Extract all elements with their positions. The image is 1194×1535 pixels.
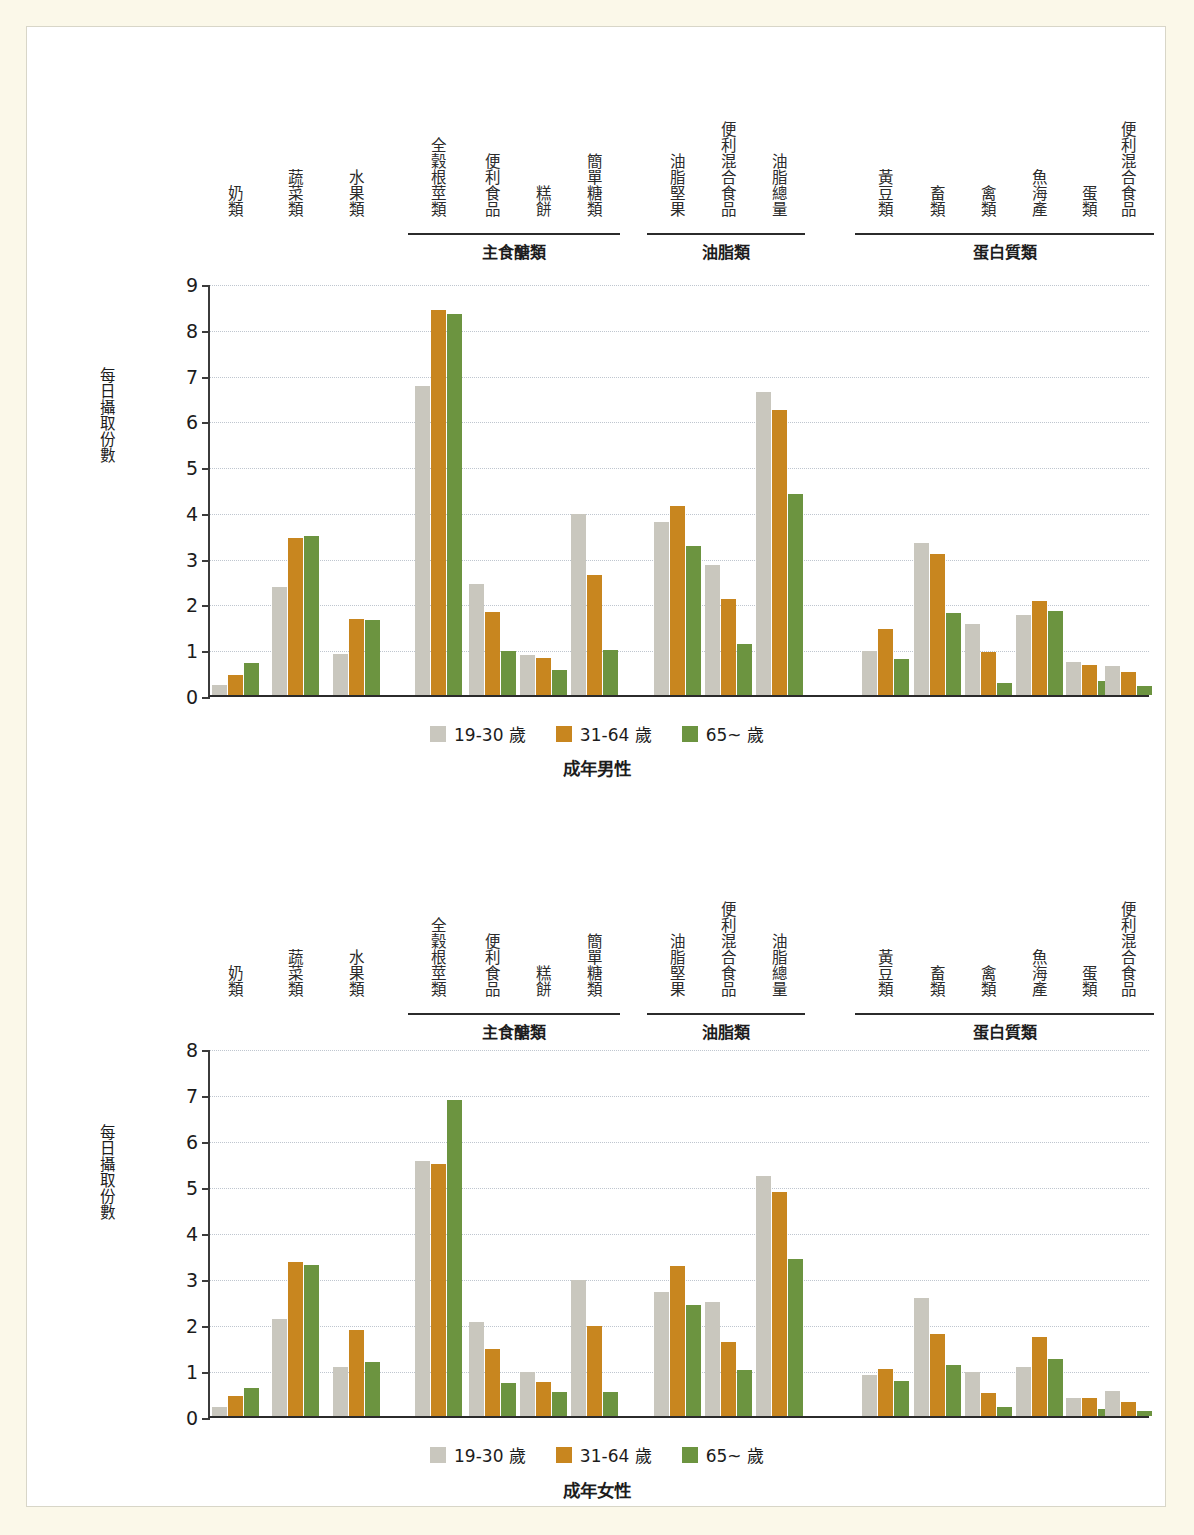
- bar-male-3-0: [415, 386, 430, 695]
- gridline-male-5: [210, 468, 1149, 469]
- gridline-male-7: [210, 377, 1149, 378]
- bar-male-3-1: [431, 310, 446, 695]
- gridline-female-7: [210, 1096, 1149, 1097]
- bar-male-12-2: [997, 683, 1012, 695]
- legend-item-female-1: 31-64 歲: [556, 1442, 652, 1467]
- legend-item-male-0: 19-30 歲: [430, 721, 526, 746]
- y-tick-label-male-1: 1: [186, 640, 198, 662]
- y-tick-female-3: [202, 1280, 210, 1282]
- bar-female-2-0: [333, 1367, 348, 1416]
- y-tick-female-5: [202, 1188, 210, 1190]
- category-label-male-15: 便利混合食品: [1118, 121, 1134, 217]
- y-tick-label-female-6: 6: [186, 1131, 198, 1153]
- bar-female-0-1: [228, 1396, 243, 1416]
- category-label-male-12: 禽類: [978, 185, 994, 217]
- y-tick-male-7: [202, 377, 210, 379]
- y-tick-label-male-5: 5: [186, 457, 198, 479]
- chart-title-female: 成年女性: [27, 1477, 1167, 1502]
- category-header-band-female: 奶類蔬菜類水果類全穀根莖類便利食品糕餅簡單糖類油脂堅果便利混合食品油脂總量黃豆類…: [27, 847, 1167, 1042]
- legend-item-female-0: 19-30 歲: [430, 1442, 526, 1467]
- bar-male-1-0: [272, 587, 287, 695]
- y-tick-male-0: [202, 697, 210, 699]
- legend-item-female-2: 65~ 歲: [682, 1442, 764, 1467]
- legend-swatch-male-2: [682, 726, 698, 742]
- y-tick-label-female-2: 2: [186, 1315, 198, 1337]
- bar-female-0-0: [212, 1407, 227, 1416]
- group-name-female-1: 油脂類: [702, 1019, 750, 1043]
- bar-female-13-1: [1032, 1337, 1047, 1416]
- category-label-female-11: 畜類: [927, 965, 943, 997]
- bar-female-6-2: [603, 1392, 618, 1416]
- bar-male-2-0: [333, 654, 348, 695]
- category-label-female-10: 黃豆類: [875, 949, 891, 997]
- legend-swatch-female-2: [682, 1447, 698, 1463]
- y-tick-female-8: [202, 1050, 210, 1052]
- bar-male-7-0: [654, 522, 669, 695]
- category-label-female-12: 禽類: [978, 965, 994, 997]
- y-tick-label-male-9: 9: [186, 274, 198, 296]
- bar-female-8-0: [705, 1302, 720, 1416]
- y-tick-male-6: [202, 422, 210, 424]
- bar-female-5-2: [552, 1392, 567, 1416]
- y-tick-label-male-2: 2: [186, 594, 198, 616]
- y-tick-male-5: [202, 468, 210, 470]
- bar-female-6-1: [587, 1326, 602, 1416]
- legend-label-male-0: 19-30 歲: [454, 721, 526, 746]
- bar-female-15-0: [1105, 1391, 1120, 1416]
- y-tick-label-female-5: 5: [186, 1177, 198, 1199]
- legend-swatch-male-0: [430, 726, 446, 742]
- bar-female-9-2: [788, 1259, 803, 1416]
- bar-female-1-1: [288, 1262, 303, 1416]
- group-rule-female-2: [855, 1013, 1154, 1015]
- group-name-male-2: 蛋白質類: [973, 239, 1037, 263]
- gridline-male-9: [210, 285, 1149, 286]
- legend-label-male-2: 65~ 歲: [706, 721, 764, 746]
- gridline-male-6: [210, 422, 1149, 423]
- group-rule-female-1: [647, 1013, 805, 1015]
- y-tick-male-8: [202, 331, 210, 333]
- bar-female-9-1: [772, 1192, 787, 1416]
- bar-male-4-1: [485, 612, 500, 695]
- bar-female-12-2: [997, 1407, 1012, 1416]
- bar-female-0-2: [244, 1388, 259, 1416]
- y-tick-label-female-8: 8: [186, 1039, 198, 1061]
- bar-male-14-1: [1082, 665, 1097, 695]
- bar-female-13-0: [1016, 1367, 1031, 1416]
- bar-female-10-1: [878, 1369, 893, 1416]
- bar-female-14-1: [1082, 1398, 1097, 1416]
- category-label-female-7: 油脂堅果: [667, 933, 683, 997]
- bar-female-8-2: [737, 1370, 752, 1416]
- y-tick-label-male-6: 6: [186, 411, 198, 433]
- bar-female-3-2: [447, 1100, 462, 1416]
- plot-area-female: 012345678每日攝取份數: [208, 1050, 1149, 1418]
- y-tick-label-female-0: 0: [186, 1407, 198, 1429]
- category-label-male-13: 魚海產: [1029, 169, 1045, 217]
- y-tick-label-male-3: 3: [186, 549, 198, 571]
- bar-male-9-1: [772, 410, 787, 695]
- group-rule-male-2: [855, 233, 1154, 235]
- bar-male-1-2: [304, 536, 319, 695]
- bar-male-4-0: [469, 584, 484, 695]
- group-name-female-0: 主食醣類: [482, 1019, 546, 1043]
- bar-male-0-1: [228, 675, 243, 695]
- category-label-female-2: 水果類: [346, 949, 362, 997]
- y-tick-label-female-1: 1: [186, 1361, 198, 1383]
- category-label-female-13: 魚海產: [1029, 949, 1045, 997]
- bar-female-3-1: [431, 1164, 446, 1416]
- bar-female-7-0: [654, 1292, 669, 1416]
- bar-male-8-2: [737, 644, 752, 695]
- group-rule-female-0: [408, 1013, 620, 1015]
- bar-female-2-2: [365, 1362, 380, 1416]
- legend-swatch-male-1: [556, 726, 572, 742]
- y-tick-female-7: [202, 1096, 210, 1098]
- bar-male-15-2: [1137, 686, 1152, 695]
- bar-female-15-2: [1137, 1411, 1152, 1416]
- bar-male-4-2: [501, 651, 516, 695]
- legend-label-male-1: 31-64 歲: [580, 721, 652, 746]
- bar-male-8-0: [705, 565, 720, 695]
- bar-female-3-0: [415, 1161, 430, 1416]
- bar-female-11-1: [930, 1334, 945, 1416]
- bar-male-8-1: [721, 599, 736, 695]
- bar-male-2-1: [349, 619, 364, 695]
- bar-male-9-0: [756, 392, 771, 695]
